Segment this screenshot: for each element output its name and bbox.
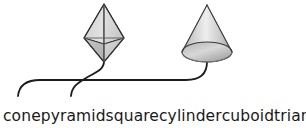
word-cylinder[interactable]: cylinder: [159, 107, 222, 125]
word-cuboid[interactable]: cuboid: [222, 107, 274, 125]
worksheet-canvas: cone pyramid square cylinder cuboid tria…: [0, 0, 306, 128]
word-triangle[interactable]: triangle: [274, 107, 306, 125]
word-square[interactable]: square: [106, 107, 159, 125]
shape-word-list: cone pyramid square cylinder cuboid tria…: [0, 104, 306, 128]
octahedron-shape: [84, 4, 124, 62]
word-cone[interactable]: cone: [3, 107, 41, 125]
connector-line-pyramid: [71, 61, 104, 96]
word-pyramid[interactable]: pyramid: [41, 107, 106, 125]
cone-shape: [182, 5, 232, 62]
connector-line-cone: [18, 62, 207, 96]
